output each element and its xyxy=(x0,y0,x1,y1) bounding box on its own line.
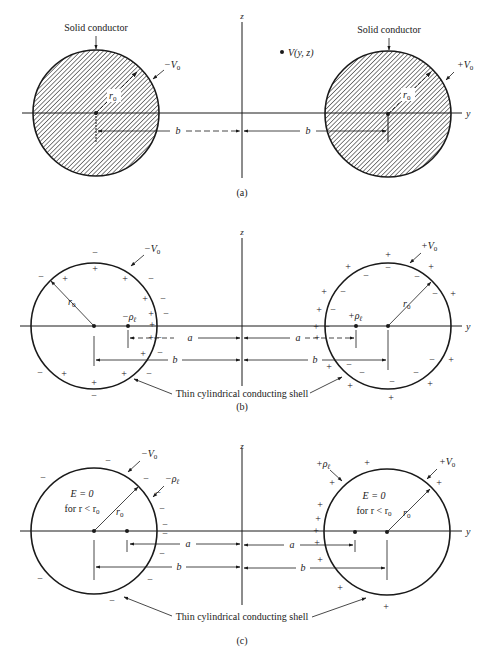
svg-text:+: + xyxy=(316,304,322,315)
svg-text:−: − xyxy=(413,367,419,378)
left-radius-label-c: r0 xyxy=(116,506,124,519)
svg-text:−: − xyxy=(37,367,43,378)
svg-text:−: − xyxy=(91,390,97,401)
svg-text:−: − xyxy=(155,487,161,498)
z-axis-label-c: z xyxy=(239,441,244,451)
right-radius-line-c xyxy=(387,489,430,532)
z-axis-label-b: z xyxy=(239,227,244,237)
left-line-charge-label-c: −ρℓ xyxy=(165,473,180,486)
svg-text:−: − xyxy=(324,321,330,332)
svg-text:−: − xyxy=(156,332,162,343)
right-b-label-a: b xyxy=(306,125,311,136)
svg-text:−: − xyxy=(340,286,346,297)
svg-text:+: + xyxy=(140,348,146,359)
left-line-charge-c xyxy=(125,529,129,533)
y-axis-label-a: y xyxy=(465,108,471,119)
svg-text:−: − xyxy=(346,359,352,370)
svg-text:+: + xyxy=(345,261,351,272)
right-a-label-c: a xyxy=(290,539,295,550)
left-conductor-label: Solid conductor xyxy=(64,22,128,33)
two-wire-line-figure: z y Solid conductor Solid conductor −V0 … xyxy=(0,0,488,654)
svg-text:+: + xyxy=(326,361,332,372)
svg-text:+: + xyxy=(148,332,154,343)
svg-text:+: + xyxy=(315,513,321,524)
svg-text:−: − xyxy=(162,528,168,539)
left-line-charge-b xyxy=(126,324,130,328)
left-center-c xyxy=(92,529,96,533)
svg-text:+: + xyxy=(91,377,97,388)
svg-text:−: − xyxy=(38,271,44,282)
svg-text:−: − xyxy=(159,548,165,559)
shell-label-b: Thin cylindrical conducting shell xyxy=(176,388,309,399)
svg-text:−: − xyxy=(157,347,163,358)
svg-text:+: + xyxy=(450,288,456,299)
svg-text:+: + xyxy=(347,380,353,391)
svg-text:+: + xyxy=(314,537,320,548)
shell-arrow-right-b xyxy=(310,377,342,393)
left-b-label-a: b xyxy=(176,125,181,136)
svg-text:+: + xyxy=(313,525,319,536)
right-potential-arrow-a xyxy=(446,72,454,80)
panel-a: z y Solid conductor Solid conductor −V0 … xyxy=(22,11,474,199)
svg-text:+: + xyxy=(148,308,154,319)
svg-text:−: − xyxy=(160,293,166,304)
right-line-charge-label-b: +ρℓ xyxy=(348,310,363,323)
svg-text:+: + xyxy=(448,354,454,365)
svg-text:−: − xyxy=(147,574,153,585)
right-center-b xyxy=(386,324,390,328)
svg-text:+: + xyxy=(92,263,98,274)
caption-b: (b) xyxy=(236,401,248,413)
shell-arrow-left-c xyxy=(124,597,172,616)
panel-b: z y −V0 +V0 r0 r0 −ρℓ +ρℓ a a xyxy=(20,227,471,413)
panel-c: z y −V0 +V0 −ρℓ +ρℓ E = 0 for r < r0 E =… xyxy=(20,441,471,647)
shell-arrow-left-b xyxy=(134,379,172,394)
left-potential-arrow-c xyxy=(128,461,140,472)
svg-text:+: + xyxy=(385,249,391,260)
svg-text:−: − xyxy=(432,288,438,299)
right-line-charge-b xyxy=(354,324,358,328)
left-radius-label-b: r0 xyxy=(68,296,76,309)
svg-text:+: + xyxy=(317,554,323,565)
svg-text:−: − xyxy=(163,308,169,319)
svg-text:+: + xyxy=(149,319,155,330)
svg-text:+: + xyxy=(337,582,343,593)
right-field-label-c: E = 0 xyxy=(362,490,386,501)
right-line-charge-label-c: +ρℓ xyxy=(316,458,331,471)
svg-text:+: + xyxy=(142,293,148,304)
svg-text:−: − xyxy=(92,247,98,258)
svg-text:−: − xyxy=(40,472,46,483)
caption-c: (c) xyxy=(236,635,247,647)
svg-text:−: − xyxy=(148,273,154,284)
z-axis-label-a: z xyxy=(239,11,244,21)
svg-text:−: − xyxy=(385,262,391,273)
svg-text:+: + xyxy=(364,457,370,468)
right-potential-a: +V0 xyxy=(457,59,474,72)
svg-text:+: + xyxy=(436,477,442,488)
svg-text:+: + xyxy=(388,392,394,403)
svg-text:+: + xyxy=(121,368,127,379)
svg-text:+: + xyxy=(317,499,323,510)
right-center-c xyxy=(385,530,389,534)
svg-text:−: − xyxy=(389,376,395,387)
left-b-label-c: b xyxy=(177,561,182,572)
left-a-label-c: a xyxy=(186,538,191,549)
y-axis-label-c: y xyxy=(465,526,471,537)
svg-text:−: − xyxy=(429,354,435,365)
right-a-label-b: a xyxy=(296,332,301,343)
right-b-label-b: b xyxy=(313,354,318,365)
svg-text:+: + xyxy=(314,332,320,343)
left-line-charge-label-b: −ρℓ xyxy=(122,311,137,324)
right-potential-c: +V0 xyxy=(439,456,456,469)
svg-text:−: − xyxy=(359,367,365,378)
svg-text:−: − xyxy=(105,455,111,466)
field-point-label: V(y, z) xyxy=(288,47,314,59)
right-conductor-label: Solid conductor xyxy=(357,24,421,35)
svg-text:−: − xyxy=(159,503,165,514)
svg-text:−: − xyxy=(109,595,115,606)
right-line-charge-c xyxy=(353,530,357,534)
left-field-label-c: E = 0 xyxy=(70,488,94,499)
left-b-label-b: b xyxy=(173,354,178,365)
svg-text:+: + xyxy=(62,273,68,284)
caption-a: (a) xyxy=(236,187,247,199)
svg-text:−: − xyxy=(414,271,420,282)
